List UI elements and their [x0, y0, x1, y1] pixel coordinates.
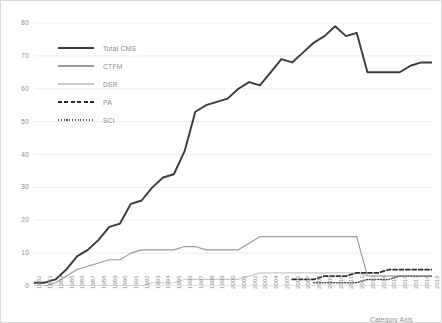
y-axis-tick-label: 20: [7, 216, 29, 223]
x-axis-tick-label: 1994: [165, 275, 171, 289]
x-axis-tick-label: 2011: [348, 276, 354, 289]
x-axis-tick-label: 1987: [90, 275, 96, 289]
legend-label: Total CMS: [103, 45, 136, 52]
x-axis-tick-label: 2005: [284, 275, 290, 289]
chart-figure: Category Axis Total CMSCTFMDSRPASCI 0102…: [0, 0, 442, 323]
x-axis-tick-label: 2015: [391, 275, 397, 289]
x-axis-tick-label: 1988: [101, 275, 107, 289]
legend-swatch-icon: [58, 43, 94, 53]
x-axis-tick-label: 1996: [187, 275, 193, 289]
legend-label: CTFM: [103, 63, 123, 70]
y-axis-tick-label: 40: [7, 151, 29, 158]
legend-swatch-icon: [58, 115, 94, 125]
legend-item-pa[interactable]: PA: [58, 93, 136, 111]
x-axis-tick-label: 1998: [209, 275, 215, 289]
x-axis-tick-label: 1982: [36, 275, 42, 289]
x-axis-tick-label: 2016: [402, 275, 408, 289]
x-axis-tick-label: 2018: [424, 275, 430, 289]
x-axis-tick-label: 1991: [133, 275, 139, 289]
x-axis-tick-label: 1985: [69, 275, 75, 289]
x-axis-tick-label: 1999: [219, 275, 225, 289]
x-axis-tick-label: 2007: [305, 275, 311, 289]
x-axis-tick-label: 2019: [434, 275, 440, 289]
x-axis-tick-label: 1990: [122, 275, 128, 289]
x-axis-tick-label: 1992: [144, 275, 150, 289]
legend-swatch-icon: [58, 79, 94, 89]
x-axis-tick-label: 2017: [413, 275, 419, 289]
y-axis-tick-label: 80: [7, 19, 29, 26]
x-axis-tick-label: 1984: [58, 275, 64, 289]
chart-legend: Total CMSCTFMDSRPASCI: [58, 39, 136, 129]
legend-item-total-cms[interactable]: Total CMS: [58, 39, 136, 57]
x-axis-tick-label: 1993: [155, 275, 161, 289]
x-axis-tick-label: 1989: [112, 275, 118, 289]
x-axis-tick-label: 2009: [327, 275, 333, 289]
x-axis-tick-label: 1983: [47, 275, 53, 289]
y-axis-tick-label: 0: [7, 282, 29, 289]
y-axis-tick-label: 70: [7, 52, 29, 59]
legend-label: DSR: [103, 81, 118, 88]
x-axis-tick-label: 2003: [262, 275, 268, 289]
legend-swatch-icon: [58, 61, 94, 71]
legend-item-sci[interactable]: SCI: [58, 111, 136, 129]
x-axis-tick-label: 2006: [295, 275, 301, 289]
x-axis-tick-label: 2002: [252, 275, 258, 289]
legend-swatch-icon: [58, 97, 94, 107]
y-axis-tick-label: 50: [7, 118, 29, 125]
x-axis-tick-label: 2013: [370, 275, 376, 289]
legend-label: PA: [103, 99, 112, 106]
y-axis-tick-label: 60: [7, 85, 29, 92]
x-axis-tick-label: 2010: [338, 275, 344, 289]
x-axis-tick-label: 1995: [176, 275, 182, 289]
x-axis-tick-label: 2012: [359, 275, 365, 289]
legend-label: SCI: [103, 117, 115, 124]
x-axis-tick-label: 2001: [241, 275, 247, 289]
x-axis-tick-label: 1997: [198, 275, 204, 289]
x-axis-tick-label: 1986: [79, 275, 85, 289]
x-axis-tick-label: 2014: [381, 275, 387, 289]
x-axis-tick-label: 2000: [230, 275, 236, 289]
x-axis-tick-label: 2008: [316, 275, 322, 289]
y-axis-tick-label: 30: [7, 183, 29, 190]
x-axis-title: Category Axis: [370, 316, 413, 323]
x-axis-tick-label: 2004: [273, 275, 279, 289]
y-axis-tick-label: 10: [7, 249, 29, 256]
legend-item-dsr[interactable]: DSR: [58, 75, 136, 93]
legend-item-ctfm[interactable]: CTFM: [58, 57, 136, 75]
